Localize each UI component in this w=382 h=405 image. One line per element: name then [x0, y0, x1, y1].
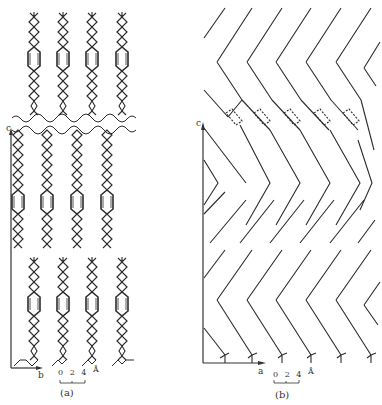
panel-b-caption: (b)	[275, 390, 289, 400]
panel-b-structure-drawing	[190, 0, 382, 405]
panel-b: c a 0 2 4 Å (b)	[190, 0, 382, 405]
scale-bar-ticks: 0 2 4	[273, 371, 303, 379]
scale-bar-ticks: 0 2 4	[58, 369, 88, 377]
panel-a-caption: (a)	[60, 388, 74, 398]
scale-bar-unit: Å	[308, 368, 316, 376]
a-axis-label: a	[258, 367, 263, 376]
c-axis-label: c	[6, 124, 11, 133]
b-axis-label: b	[38, 371, 44, 380]
scale-bar-unit: Å	[93, 366, 101, 374]
panel-a-structure-drawing	[0, 0, 190, 405]
panel-a: c b 0 2 4 Å (a)	[0, 0, 190, 405]
c-axis-label: c	[196, 119, 201, 128]
